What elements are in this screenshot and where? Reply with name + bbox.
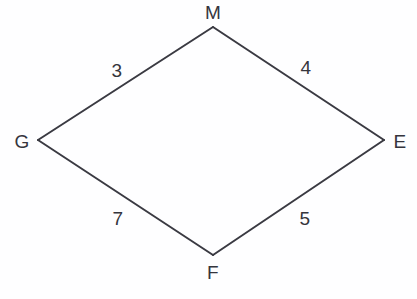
side-label-fe: 5 xyxy=(300,209,311,228)
edge-f-e xyxy=(213,140,384,255)
vertex-label-m: M xyxy=(205,3,221,22)
vertex-label-g: G xyxy=(15,132,30,151)
side-label-gf: 7 xyxy=(113,209,124,228)
edge-m-e xyxy=(213,27,384,140)
side-label-me: 4 xyxy=(301,58,312,77)
side-label-gm: 3 xyxy=(112,61,123,80)
edge-g-f xyxy=(38,140,213,255)
quadrilateral-svg xyxy=(0,0,417,299)
edge-g-m xyxy=(38,27,213,140)
geometry-figure: M E F G 3 4 7 5 xyxy=(0,0,417,299)
vertex-label-f: F xyxy=(207,263,219,282)
vertex-label-e: E xyxy=(394,132,407,151)
quadrilateral-outline xyxy=(38,27,384,255)
